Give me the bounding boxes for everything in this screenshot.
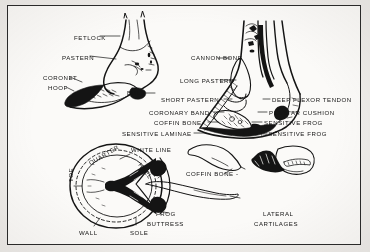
label-coronary-band: CORONARY BAND — [149, 110, 210, 116]
label-sole: SOLE — [130, 230, 148, 236]
label-short-pastern: SHORT PASTERN — [161, 97, 219, 103]
label-frog: FROG — [156, 211, 176, 217]
figure-frame: FETLOCK PASTERN CORONET HOOF BULB CANNON… — [7, 5, 361, 245]
label-wall: WALL — [79, 230, 98, 236]
label-lateral: LATERAL — [263, 211, 294, 217]
label-coffin-bone-upper: COFFIN BONE — [154, 120, 202, 126]
label-white-line: WHITE LINE — [131, 147, 171, 153]
label-plantar-cushion: PLANTAR CUSHION — [269, 110, 335, 116]
label-hoof: HOOF — [48, 85, 68, 91]
label-sensitive-laminae: SENSITIVE LAMINAE — [122, 131, 192, 137]
label-coronet: CORONET — [43, 75, 77, 81]
label-coffin-bone-lower: COFFIN BONE - — [186, 171, 239, 177]
label-fetlock: FETLOCK — [74, 35, 106, 41]
label-buttress: BUTTRESS — [147, 221, 184, 227]
label-cannon-bone: CANNON BONE — [191, 55, 242, 61]
label-insensitive-frog: INSENSITIVE FROG — [261, 131, 327, 137]
label-sensitive-frog: SENSITIVE FROG — [264, 120, 323, 126]
label-pastern: PASTERN — [62, 55, 94, 61]
label-toe: TOE — [68, 168, 74, 182]
label-long-pastern: LONG PASTERN — [180, 78, 234, 84]
label-deep-flexor-tendon: DEEP FLEXOR TENDON — [272, 97, 352, 103]
label-bulb: BULB — [127, 90, 145, 96]
label-cartilages: CARTILAGES — [254, 221, 298, 227]
anatomy-figure: FETLOCK PASTERN CORONET HOOF BULB CANNON… — [0, 0, 370, 252]
